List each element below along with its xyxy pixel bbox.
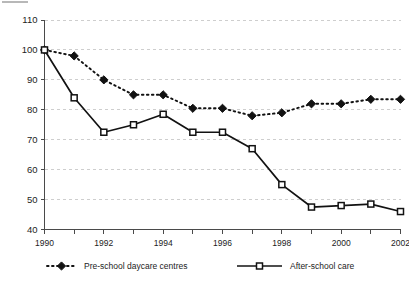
x-tick-label: 2000: [332, 238, 351, 248]
x-tick-label: 1990: [35, 238, 54, 248]
data-point: [42, 47, 48, 53]
data-point: [398, 209, 404, 215]
legend-marker-swatch: [57, 262, 65, 270]
data-point: [129, 91, 137, 99]
x-tick-label: 1998: [272, 238, 291, 248]
x-tick-label: 1994: [154, 238, 173, 248]
data-point: [190, 129, 196, 135]
x-tick-label: 1992: [94, 238, 113, 248]
y-tick-label: 80: [27, 104, 38, 115]
data-point: [338, 203, 344, 209]
series-1: [40, 46, 404, 120]
y-tick-label: 60: [27, 164, 38, 175]
chart-canvas: 405060708090100110 199019921994199619982…: [0, 0, 409, 286]
legend-item-1[interactable]: Pre-school daycare centres: [47, 261, 187, 271]
data-point: [337, 100, 345, 108]
y-tick-label: 50: [27, 194, 38, 205]
y-tick-label: 70: [27, 134, 38, 145]
data-point: [367, 95, 375, 103]
y-tick-label: 90: [27, 74, 38, 85]
data-point: [131, 122, 137, 128]
y-tick-label: 40: [27, 224, 38, 235]
legend-item-2[interactable]: After-school care: [237, 261, 355, 271]
x-tick-label: 1996: [213, 238, 232, 248]
data-point: [71, 95, 77, 101]
data-point: [279, 182, 285, 188]
data-point: [307, 100, 315, 108]
line-chart: 405060708090100110 199019921994199619982…: [0, 0, 409, 286]
x-axis-ticks-group: 1990199219941996199820002002: [35, 230, 409, 248]
data-point: [248, 112, 256, 120]
data-point: [220, 129, 226, 135]
data-point: [160, 111, 166, 117]
legend-label: Pre-school daycare centres: [84, 261, 187, 271]
data-point: [396, 95, 404, 103]
legend-marker-swatch: [257, 263, 263, 269]
series-group: [40, 46, 404, 215]
series-2: [42, 47, 404, 215]
data-point: [309, 204, 315, 210]
scan-artifact: [2, 1, 28, 3]
data-point: [101, 129, 107, 135]
data-point: [368, 201, 374, 207]
data-point: [189, 104, 197, 112]
y-tick-label: 100: [22, 44, 38, 55]
y-tick-label: 110: [22, 14, 37, 25]
data-point: [218, 104, 226, 112]
x-tick-label: 2002: [391, 238, 409, 248]
legend-group: Pre-school daycare centresAfter-school c…: [47, 261, 355, 271]
data-point: [159, 91, 167, 99]
legend-label: After-school care: [290, 261, 355, 271]
data-point: [249, 146, 255, 152]
